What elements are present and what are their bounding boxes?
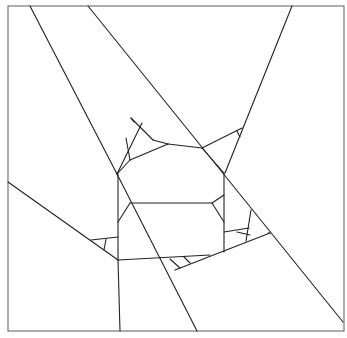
segment-s29	[246, 210, 251, 241]
diagram-canvas	[0, 0, 347, 338]
outer-frame	[8, 6, 344, 331]
segment-s30	[91, 237, 118, 240]
segment-s16	[117, 123, 142, 174]
segment-s19	[168, 144, 202, 148]
segment-s14	[175, 233, 270, 270]
segment-s20	[202, 148, 224, 173]
segment-s23	[153, 140, 168, 144]
segment-s13	[118, 255, 210, 260]
segment-s1	[30, 6, 117, 174]
segment-s6	[117, 174, 197, 331]
segment-s18	[117, 160, 130, 174]
segment-s26	[237, 131, 240, 137]
segment-s4	[8, 182, 118, 260]
segment-s32	[170, 259, 180, 268]
segment-s12	[212, 203, 224, 222]
line-partition-diagram	[0, 0, 347, 338]
segment-s22	[131, 118, 153, 140]
segment-s28	[237, 232, 250, 235]
segment-s33	[184, 257, 190, 263]
segment-s31	[104, 239, 106, 250]
segment-s27	[224, 228, 249, 232]
segment-s5	[118, 260, 120, 331]
segment-s11	[212, 195, 224, 203]
segment-s10	[118, 203, 130, 222]
segment-s17	[130, 144, 168, 160]
segment-group	[8, 6, 343, 331]
segment-s3	[225, 6, 292, 173]
